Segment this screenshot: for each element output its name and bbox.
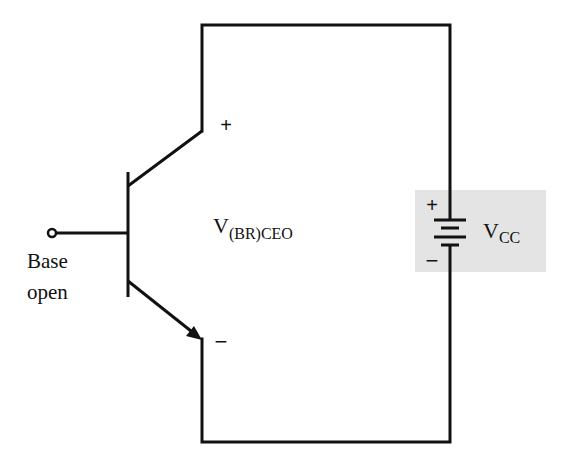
- base-terminal-icon[interactable]: [48, 229, 56, 237]
- collector-lead: [128, 131, 202, 186]
- breakdown-voltage-label: V(BR)CEO: [213, 213, 293, 243]
- supply-voltage-main: V: [483, 218, 499, 243]
- circuit-diagram: + − Base open V(BR)CEO + − VCC: [0, 0, 572, 470]
- supply-voltage-subscript: CC: [499, 229, 520, 246]
- base-label-line1: Base: [27, 249, 68, 273]
- emitter-wire: [202, 246, 450, 442]
- breakdown-voltage-main: V: [213, 213, 229, 238]
- base-label-line2: open: [27, 280, 68, 304]
- npn-transistor-icon: [56, 131, 202, 335]
- supply-minus-sign: −: [426, 248, 439, 273]
- supply-plus-sign: +: [426, 194, 438, 216]
- breakdown-voltage-subscript: (BR)CEO: [229, 225, 293, 243]
- collector-wire: [202, 25, 450, 219]
- emitter-minus-sign: −: [215, 329, 228, 354]
- emitter-lead: [128, 281, 196, 335]
- collector-plus-sign: +: [220, 114, 232, 136]
